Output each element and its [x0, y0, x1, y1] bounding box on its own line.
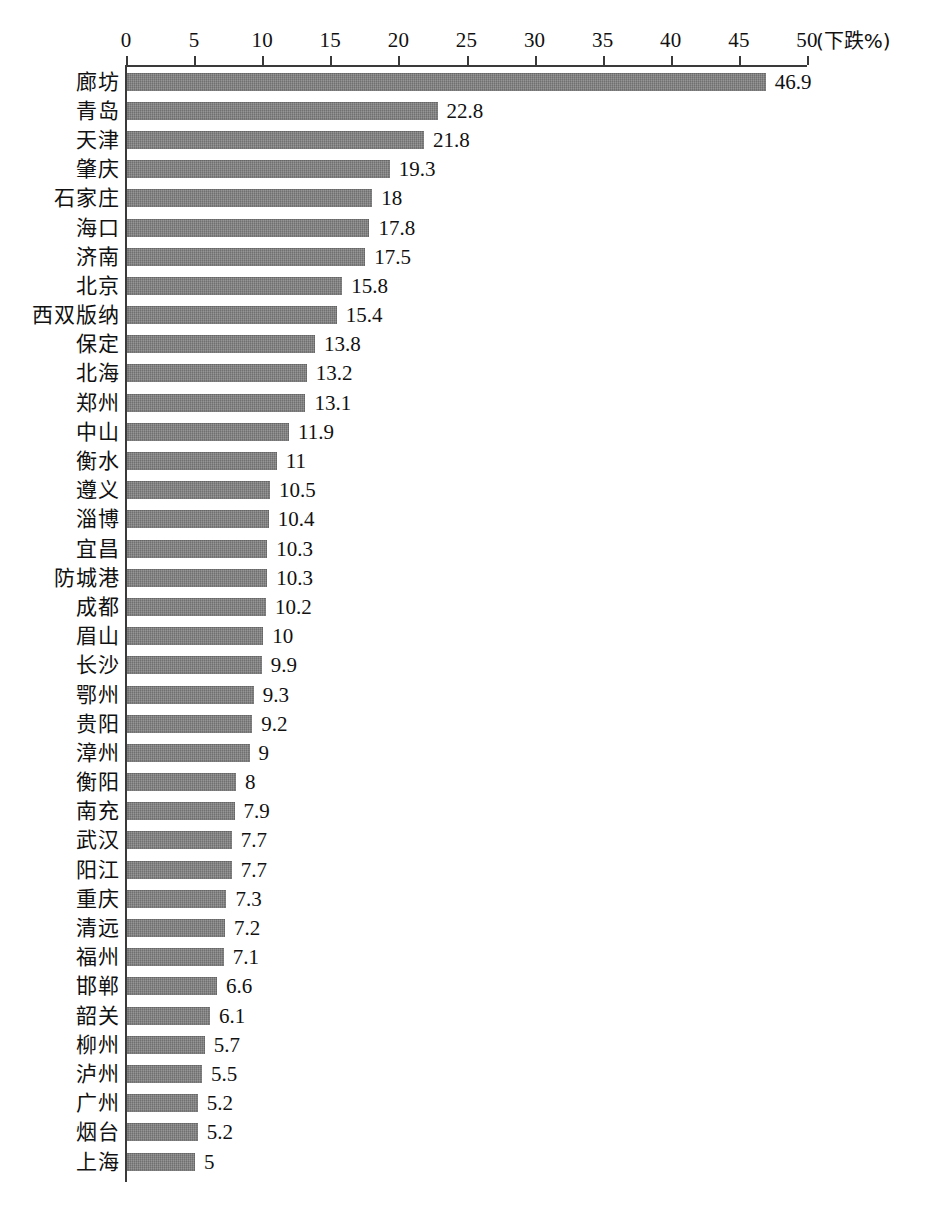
bar [127, 394, 305, 412]
bar-row: 宜昌10.3 [0, 534, 941, 563]
bar-row: 北海13.2 [0, 359, 941, 388]
category-label: 阳江 [76, 858, 120, 882]
category-label: 柳州 [76, 1033, 120, 1057]
bar-row: 成都10.2 [0, 592, 941, 621]
bar [127, 364, 307, 382]
bar-value-label: 10.3 [276, 538, 313, 560]
bar-row: 济南17.5 [0, 242, 941, 271]
x-tick-label: 25 [456, 28, 477, 53]
category-label: 鄂州 [76, 683, 120, 707]
x-tick-mark [398, 56, 400, 65]
bar-and-value: 7.1 [127, 948, 259, 966]
x-tick-mark [535, 56, 537, 65]
bar [127, 598, 266, 616]
bar-value-label: 11.9 [298, 421, 334, 443]
bar-row: 衡阳8 [0, 768, 941, 797]
x-tick-label: 35 [592, 28, 613, 53]
bar [127, 102, 438, 120]
bar-and-value: 5.7 [127, 1036, 240, 1054]
category-label: 广州 [76, 1091, 120, 1115]
bar-and-value: 5.5 [127, 1065, 237, 1083]
category-label: 海口 [76, 216, 120, 240]
bar-value-label: 17.5 [374, 246, 411, 268]
bar [127, 73, 766, 91]
bar-value-label: 7.7 [241, 829, 267, 851]
bar-row: 防城港10.3 [0, 563, 941, 592]
category-label: 防城港 [54, 566, 120, 590]
bar-row: 长沙9.9 [0, 651, 941, 680]
category-label: 肇庆 [76, 157, 120, 181]
category-label: 青岛 [76, 99, 120, 123]
x-tick-label: 15 [320, 28, 341, 53]
category-label: 宜昌 [76, 537, 120, 561]
bar-and-value: 19.3 [127, 160, 436, 178]
x-tick-label: 20 [388, 28, 409, 53]
bar [127, 481, 270, 499]
bar [127, 306, 337, 324]
bar-and-value: 21.8 [127, 131, 470, 149]
bar [127, 248, 365, 266]
x-tick-mark [194, 56, 196, 65]
bar-value-label: 10 [272, 625, 293, 647]
bar-value-label: 5.7 [214, 1034, 240, 1056]
bar [127, 861, 232, 879]
bar-value-label: 9.9 [271, 654, 297, 676]
bar-and-value: 13.2 [127, 364, 353, 382]
bar-value-label: 5.2 [207, 1121, 233, 1143]
bar-value-label: 10.2 [275, 596, 312, 618]
category-label: 遵义 [76, 478, 120, 502]
bar-value-label: 10.5 [279, 479, 316, 501]
bar [127, 452, 277, 470]
category-label: 中山 [76, 420, 120, 444]
bar [127, 510, 269, 528]
x-axis-header: 05101520253035404550(下跌%) [0, 28, 941, 62]
category-label: 成都 [76, 595, 120, 619]
bar-value-label: 6.1 [219, 1005, 245, 1027]
x-axis-unit-label: (下跌%) [816, 29, 891, 54]
bar-row: 漳州9 [0, 738, 941, 767]
bar-value-label: 9 [259, 742, 270, 764]
bar-rows: 廊坊46.9青岛22.8天津21.8肇庆19.3石家庄18海口17.8济南17.… [0, 67, 941, 1176]
x-tick-label: 45 [728, 28, 749, 53]
bar-value-label: 13.8 [324, 333, 361, 355]
bar-value-label: 5.2 [207, 1092, 233, 1114]
bar-chart: 05101520253035404550(下跌%) 廊坊46.9青岛22.8天津… [0, 0, 941, 1222]
bar-row: 邯郸6.6 [0, 972, 941, 1001]
bar-and-value: 10.2 [127, 598, 312, 616]
category-label: 泸州 [76, 1062, 120, 1086]
x-tick-mark [467, 56, 469, 65]
bar-row: 广州5.2 [0, 1089, 941, 1118]
bar-value-label: 18 [381, 187, 402, 209]
category-label: 西双版纳 [32, 303, 120, 327]
bar [127, 189, 372, 207]
bar [127, 1007, 210, 1025]
bar [127, 277, 342, 295]
bar-and-value: 11 [127, 452, 306, 470]
bar-row: 西双版纳15.4 [0, 301, 941, 330]
bar-and-value: 46.9 [127, 73, 812, 91]
bar-value-label: 7.1 [233, 946, 259, 968]
category-label: 济南 [76, 245, 120, 269]
bar-value-label: 15.8 [351, 275, 388, 297]
category-label: 衡阳 [76, 770, 120, 794]
bar-value-label: 22.8 [447, 100, 484, 122]
bar [127, 219, 369, 237]
category-label: 衡水 [76, 449, 120, 473]
bar-row: 天津21.8 [0, 125, 941, 154]
x-tick-label: 30 [524, 28, 545, 53]
bar-row: 上海5 [0, 1147, 941, 1176]
bar [127, 335, 315, 353]
bar-row: 泸州5.5 [0, 1059, 941, 1088]
category-label: 北京 [76, 274, 120, 298]
bar-row: 重庆7.3 [0, 884, 941, 913]
x-tick-mark [262, 56, 264, 65]
bar [127, 627, 263, 645]
bar [127, 890, 226, 908]
bar [127, 802, 235, 820]
category-label: 郑州 [76, 391, 120, 415]
bar [127, 423, 289, 441]
bar-and-value: 7.2 [127, 919, 260, 937]
bar-and-value: 5 [127, 1153, 215, 1171]
bar-value-label: 46.9 [775, 71, 812, 93]
bar-value-label: 10.3 [276, 567, 313, 589]
